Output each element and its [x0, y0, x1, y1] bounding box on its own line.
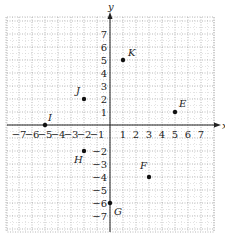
y-tick-label: 5: [101, 55, 107, 66]
y-tick-label: 3: [101, 81, 107, 92]
point-label: F: [139, 160, 148, 171]
y-tick-label: 1: [101, 107, 107, 118]
y-tick-label: −3: [92, 159, 107, 170]
point-marker-icon: [147, 175, 151, 179]
y-tick-label: −7: [92, 211, 107, 222]
x-tick-label: 5: [172, 129, 178, 140]
y-tick-label: 7: [101, 29, 107, 40]
point-label: G: [114, 206, 122, 217]
point-marker-icon: [108, 201, 112, 205]
point-marker-icon: [173, 110, 177, 114]
point-label: E: [178, 98, 187, 109]
point-label: K: [127, 47, 136, 58]
point-marker-icon: [82, 149, 86, 153]
y-tick-label: −2: [92, 146, 107, 157]
x-axis-label: x: [222, 120, 225, 131]
y-axis-arrow-icon: [108, 12, 113, 19]
point-label: J: [74, 85, 81, 96]
y-tick-label: −4: [92, 172, 107, 183]
point-F: F: [139, 160, 151, 179]
point-marker-icon: [82, 97, 86, 101]
point-marker-icon: [43, 123, 47, 127]
point-label: I: [47, 112, 53, 123]
y-tick-label: −5: [92, 185, 107, 196]
x-tick-label: 3: [146, 129, 152, 140]
point-label: H: [73, 154, 83, 165]
coordinate-plane: xy −7−6−5−4−3−2−112345677654321−2−3−4−5−…: [0, 0, 225, 237]
x-tick-label: 7: [198, 129, 204, 140]
axes: xy: [7, 1, 225, 232]
y-tick-label: −6: [92, 198, 107, 209]
y-tick-label: 4: [101, 68, 107, 79]
x-tick-label: 1: [120, 129, 126, 140]
x-tick-label: 2: [133, 129, 139, 140]
y-tick-label: 6: [101, 42, 107, 53]
point-marker-icon: [121, 58, 125, 62]
x-tick-label: −1: [90, 129, 105, 140]
y-tick-label: 2: [101, 94, 107, 105]
x-axis-arrow-icon: [214, 123, 221, 128]
x-tick-label: 4: [159, 129, 165, 140]
x-tick-label: 6: [185, 129, 191, 140]
y-axis-label: y: [107, 1, 114, 12]
